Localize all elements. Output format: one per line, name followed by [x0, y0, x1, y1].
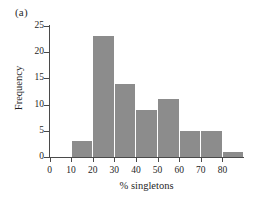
y-axis-tick	[44, 78, 49, 79]
y-axis-tick	[44, 105, 49, 106]
x-axis-line	[49, 157, 244, 158]
y-axis-tick	[44, 52, 49, 53]
y-axis-line	[49, 25, 50, 158]
x-axis-tick	[179, 158, 180, 162]
x-axis-tick	[114, 158, 115, 162]
x-axis-tick	[71, 158, 72, 162]
x-axis-tick	[136, 158, 137, 162]
x-axis-tick	[201, 158, 202, 162]
histogram-bar	[136, 110, 157, 157]
histogram-bar	[201, 131, 222, 157]
figure-panel-a: (a) 0510152025 01020304050607080 % singl…	[0, 0, 267, 216]
x-axis-tick	[93, 158, 94, 162]
histogram-bar	[180, 131, 201, 157]
x-axis-tick	[158, 158, 159, 162]
histogram-bar	[223, 152, 244, 157]
y-axis-tick	[44, 157, 49, 158]
y-axis-tick-label: 25	[4, 21, 44, 31]
histogram-bar	[115, 84, 136, 157]
histogram-bar	[158, 99, 179, 157]
histogram-plot-area: 0510152025 01020304050607080 % singleton…	[0, 0, 267, 216]
histogram-bar	[72, 141, 93, 157]
y-axis-title: Frequency	[13, 43, 25, 133]
x-axis-tick-label: 80	[209, 165, 235, 175]
histogram-bar	[93, 36, 114, 157]
x-axis-tick	[222, 158, 223, 162]
y-axis-tick-label: 0	[4, 152, 44, 162]
y-axis-tick	[44, 26, 49, 27]
y-axis-tick	[44, 131, 49, 132]
x-axis-title: % singletons	[49, 180, 244, 192]
x-axis-tick	[50, 158, 51, 162]
